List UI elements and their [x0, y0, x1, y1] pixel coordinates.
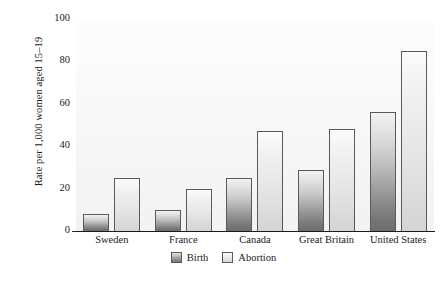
bar-abortion [114, 178, 140, 231]
legend-swatch-birth-icon [171, 252, 182, 263]
bar-birth [155, 210, 181, 231]
bar-birth [83, 214, 109, 231]
x-axis-label: Great Britain [291, 234, 363, 245]
legend-label-birth: Birth [187, 252, 209, 263]
bar-abortion [257, 131, 283, 231]
x-axis-label: France [148, 234, 220, 245]
legend-item-abortion: Abortion [222, 252, 276, 263]
bar-birth [370, 112, 396, 231]
y-axis-title: Rate per 1,000 women aged 15–19 [33, 12, 44, 212]
bar-abortion [329, 129, 355, 231]
x-axis-label: Canada [219, 234, 291, 245]
legend-item-birth: Birth [171, 252, 209, 263]
legend-swatch-abortion-icon [222, 252, 233, 263]
bar-group [291, 19, 363, 231]
legend-label-abortion: Abortion [238, 252, 276, 263]
x-axis-line [76, 231, 435, 232]
y-tick-label: 60 [36, 98, 70, 109]
bar-abortion [401, 51, 427, 231]
bar-birth [226, 178, 252, 231]
bar-group [219, 19, 291, 231]
bar-group [362, 19, 434, 231]
x-axis-label: United States [362, 234, 434, 245]
chart-legend: Birth Abortion [0, 252, 447, 263]
x-axis-labels: SwedenFranceCanadaGreat BritainUnited St… [76, 234, 434, 245]
bar-abortion [186, 189, 212, 231]
bar-group [76, 19, 148, 231]
y-tick-label: 20 [36, 183, 70, 194]
y-tick-label: 0 [36, 225, 70, 236]
bar-groups [76, 19, 434, 231]
y-tick-label: 40 [36, 140, 70, 151]
bar-group [148, 19, 220, 231]
bar-chart: Rate per 1,000 women aged 15–19 10080604… [0, 0, 447, 284]
y-tick-label: 80 [36, 55, 70, 66]
x-axis-label: Sweden [76, 234, 148, 245]
bar-birth [298, 170, 324, 231]
y-tick-label: 100 [36, 13, 70, 24]
